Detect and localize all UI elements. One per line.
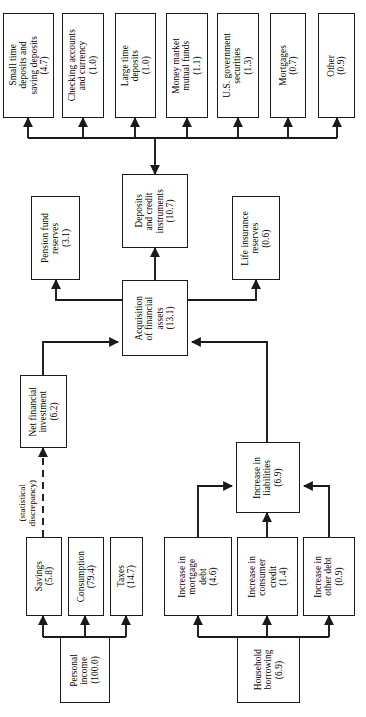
node-label: Net financial investment (6.2) <box>28 387 59 437</box>
node-label: Other (0.9) <box>326 55 347 77</box>
edge-mortgage-debt-to-liabilities <box>198 486 232 537</box>
node-large-time-deposits: Large time deposits (1.0) <box>115 13 156 118</box>
node-label: Taxes (14.7) <box>116 565 137 588</box>
node-label: Savings (5.8) <box>34 561 55 591</box>
node-household-borrowing: Household borrowing (6.9) <box>237 637 300 703</box>
edge-other-debt-to-liabilities <box>304 486 329 537</box>
node-label: Increase in liabilities (6.9) <box>252 457 283 499</box>
edge-afa-to-life-insurance <box>188 280 256 300</box>
node-personal-income: Personal income (100.0) <box>60 637 110 703</box>
node-life-insurance-reserves: Life insurance reserves (0.6) <box>232 196 280 280</box>
node-label: Small time deposits and saving deposits … <box>8 36 50 95</box>
node-label: Large time deposits (1.0) <box>120 45 151 86</box>
edge-label-text: (statistical discrepancy) <box>17 480 37 526</box>
node-taxes: Taxes (14.7) <box>110 537 143 616</box>
node-us-government-securities: U.S. government securities (1.3) <box>217 13 259 118</box>
node-acquisition-of-financial-assets: Acquisition of financial assets (13.1) <box>122 280 188 356</box>
node-checking-accounts: Checking accounts and currency (1.0) <box>62 13 104 118</box>
node-label: U.S. government securities (1.3) <box>222 33 253 98</box>
node-label: Increase in consumer credit (1.4) <box>247 556 289 598</box>
node-mortgages: Mortgages (0.7) <box>270 13 306 118</box>
node-label: Money market mutual funds (1.1) <box>171 38 202 94</box>
edge-nfi-to-afa <box>43 342 118 375</box>
node-label: Personal income (100.0) <box>69 654 100 687</box>
node-increase-in-mortgage-debt: Increase in mortgage debt (4.6) <box>164 537 232 616</box>
node-label: Life insurance reserves (0.6) <box>240 211 271 266</box>
node-net-financial-investment: Net financial investment (6.2) <box>20 375 67 448</box>
node-increase-in-liabilities: Increase in liabilities (6.9) <box>236 442 300 513</box>
edge-label-statistical-discrepancy: (statistical discrepancy) <box>8 470 36 532</box>
node-deposits-and-credit-instruments: Deposits and credit instruments (10.7) <box>122 174 188 248</box>
node-pension-fund-reserves: Pension fund reserves (3.1) <box>31 196 80 280</box>
node-money-market-mutual-funds: Money market mutual funds (1.1) <box>166 13 208 118</box>
node-label: Deposits and credit instruments (10.7) <box>134 189 176 233</box>
node-label: Increase in other debt (0.9) <box>313 556 344 598</box>
edge-liabilities-to-afa <box>192 342 267 442</box>
node-label: Consumption (79.4) <box>76 551 97 602</box>
node-label: Household borrowing (6.9) <box>253 649 284 690</box>
node-other: Other (0.9) <box>318 13 355 118</box>
node-label: Mortgages (0.7) <box>278 45 299 86</box>
node-savings: Savings (5.8) <box>26 537 62 616</box>
node-label: Acquisition of financial assets (13.1) <box>134 296 176 340</box>
flow-of-funds-diagram: Small time deposits and saving deposits … <box>0 0 366 717</box>
node-small-time-deposits: Small time deposits and saving deposits … <box>3 13 54 118</box>
node-label: Checking accounts and currency (1.0) <box>67 29 98 101</box>
node-increase-in-consumer-credit: Increase in consumer credit (1.4) <box>237 537 298 616</box>
node-increase-in-other-debt: Increase in other debt (0.9) <box>303 537 355 616</box>
node-label: Increase in mortgage debt (4.6) <box>177 556 219 598</box>
node-label: Pension fund reserves (3.1) <box>40 213 71 263</box>
edge-afa-to-pension-fund <box>56 280 122 300</box>
node-consumption: Consumption (79.4) <box>68 537 104 616</box>
